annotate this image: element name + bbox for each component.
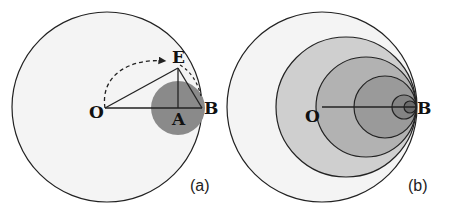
panel-a: O E A B (a) bbox=[12, 12, 218, 202]
diagram: O E A B (a) O B (b) bbox=[0, 0, 449, 212]
label-O-a: O bbox=[89, 102, 104, 122]
label-A: A bbox=[171, 109, 186, 129]
caption-a: (a) bbox=[190, 177, 210, 194]
label-E: E bbox=[172, 47, 185, 67]
panel-b: O B (b) bbox=[227, 12, 431, 202]
caption-b: (b) bbox=[408, 177, 428, 194]
label-O-b: O bbox=[305, 106, 320, 126]
label-B-a: B bbox=[204, 98, 218, 118]
label-B-b: B bbox=[417, 98, 431, 118]
